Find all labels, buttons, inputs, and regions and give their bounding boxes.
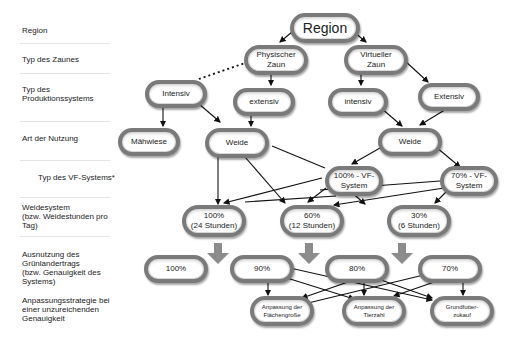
node-virtual-fence: Virtueller Zaun <box>344 45 408 75</box>
node-accuracy-90: 90% <box>230 255 294 283</box>
node-physical-fence: Physischer Zaun <box>244 45 308 75</box>
node-accuracy-100: 100% <box>144 255 208 283</box>
node-accuracy-80: 80% <box>325 255 389 283</box>
node-adjust-animals: Anpassung der Tierzahl <box>342 296 406 326</box>
node-extensive-right: Extensiv <box>418 83 480 111</box>
node-buy-feed: Grundfutter- zukauf <box>430 296 494 326</box>
node-intensive-right: intensiv <box>328 88 388 116</box>
dotted-link <box>196 62 248 80</box>
node-grazing-60: 60% (12 Stunden) <box>280 205 344 237</box>
node-vf-system-70: 70% - VF- System <box>440 166 498 196</box>
node-intensive-left: Intensiv <box>145 80 207 108</box>
node-pasture-right: Weide <box>378 128 442 156</box>
node-vf-system-100: 100% - VF- System <box>325 166 383 196</box>
node-extensive-mid: extensiv <box>233 88 295 116</box>
node-maehwiese: Mähwiese <box>118 128 180 156</box>
node-adjust-area: Anpassung der Flächengroße <box>250 296 314 326</box>
node-pasture-left: Weide <box>205 128 269 158</box>
node-region: Region <box>290 13 360 43</box>
diagram: Region Typ des Zaunes Typ des Produktion… <box>0 0 517 345</box>
node-grazing-100: 100% (24 Stunden) <box>182 205 246 237</box>
node-grazing-30: 30% (6 Stunden) <box>387 205 451 237</box>
node-accuracy-70: 70% <box>418 255 482 283</box>
